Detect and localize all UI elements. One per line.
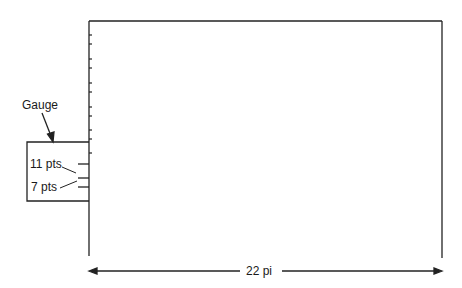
- gauge-mark-label-11pts: 11 pts: [30, 157, 62, 171]
- width-label: 22 pi: [246, 264, 272, 278]
- page-frame: [89, 21, 442, 258]
- arrow-left-icon: [89, 268, 97, 274]
- arrow-right-icon: [434, 268, 442, 274]
- leader-11pts: [62, 167, 76, 173]
- leader-7pts: [60, 181, 77, 188]
- gauge-ticks: [78, 164, 89, 187]
- gauge-label: Gauge: [22, 98, 58, 112]
- gauge-mark-label-7pts: 7 pts: [31, 180, 57, 194]
- diagram-canvas: [0, 0, 462, 288]
- gauge-arrow: [42, 113, 54, 142]
- arrowhead-icon: [48, 132, 55, 142]
- leader-lines: [60, 167, 77, 188]
